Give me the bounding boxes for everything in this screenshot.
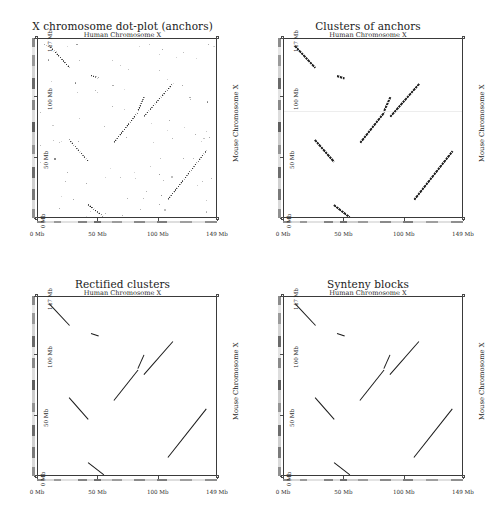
panel-clusters: Clusters of anchorsHuman Chromosome XMou… bbox=[245, 0, 491, 258]
anchor-point bbox=[65, 181, 66, 182]
anchor-point bbox=[105, 177, 106, 178]
ideogram-y-band bbox=[32, 380, 35, 390]
ideogram-y-band bbox=[278, 358, 281, 368]
y-ticklabel: 0 Mb bbox=[286, 472, 292, 487]
ideogram-x-band bbox=[333, 479, 340, 482]
plot-corner-marker bbox=[462, 217, 465, 220]
anchor-point bbox=[162, 49, 163, 50]
ideogram-y-band bbox=[32, 167, 35, 178]
anchor-point bbox=[48, 59, 49, 60]
ideogram-x-band bbox=[122, 479, 134, 482]
anchor-point bbox=[120, 65, 121, 66]
anchor-point bbox=[79, 60, 80, 61]
anchor-point bbox=[213, 46, 214, 47]
ideogram-y-band bbox=[278, 403, 281, 413]
synteny-segment bbox=[168, 409, 208, 459]
plot-corner-marker bbox=[35, 294, 38, 297]
anchor-point bbox=[51, 81, 52, 82]
anchor-point bbox=[61, 141, 62, 142]
ideogram-x-band bbox=[122, 221, 134, 224]
ideogram-x-band bbox=[44, 479, 54, 482]
ideogram-x-band bbox=[112, 479, 122, 482]
ideogram-y-band bbox=[278, 189, 281, 200]
ideogram-y-band bbox=[32, 436, 35, 447]
anchor-point bbox=[59, 142, 60, 143]
y-ticklabel: 50 Mb bbox=[43, 409, 49, 427]
ideogram-y-band bbox=[32, 189, 35, 200]
ideogram-y-band bbox=[278, 66, 281, 78]
ideogram-y-band bbox=[32, 122, 35, 132]
anchor-point bbox=[159, 204, 160, 205]
ideogram-x-band bbox=[180, 221, 192, 224]
ideogram-y-band bbox=[32, 200, 35, 210]
ideogram-y-band bbox=[32, 66, 35, 78]
ideogram-y-band bbox=[278, 336, 281, 347]
plot-corner-marker bbox=[216, 36, 219, 39]
x-ticklabel: 50 Mb bbox=[88, 231, 106, 237]
ideogram-x-band bbox=[324, 221, 332, 224]
anchor-point bbox=[167, 130, 168, 131]
anchor-point bbox=[112, 60, 113, 61]
anchor-point bbox=[59, 208, 60, 209]
ideogram-x-band bbox=[167, 221, 179, 224]
ideogram-y-band bbox=[32, 145, 35, 155]
ideogram-y-band bbox=[32, 55, 35, 66]
ideogram-y-band bbox=[32, 390, 35, 402]
y-tick bbox=[280, 415, 283, 416]
ideogram-x-band bbox=[324, 479, 332, 482]
synteny-segment bbox=[384, 97, 391, 111]
anchor-point bbox=[150, 166, 151, 167]
anchor-point bbox=[184, 127, 185, 128]
anchor-point bbox=[95, 90, 96, 91]
x-ticklabel: 50 Mb bbox=[334, 489, 352, 495]
anchor-point bbox=[140, 209, 141, 210]
ideogram-y-anchors bbox=[32, 38, 35, 218]
y-ticklabel: 100 Mb bbox=[47, 346, 53, 368]
ideogram-x-band bbox=[333, 221, 340, 224]
ideogram-x-band bbox=[368, 479, 380, 482]
ideogram-x-band bbox=[426, 479, 438, 482]
plot-area-anchors bbox=[37, 38, 217, 218]
y-ticklabel: 50 Mb bbox=[289, 409, 295, 427]
plot-area-clusters bbox=[283, 38, 463, 218]
anchor-point bbox=[135, 178, 136, 179]
figure-canvas: X chromosome dot-plot (anchors)Human Chr… bbox=[0, 0, 491, 517]
anchor-point bbox=[182, 85, 183, 86]
anchor-point bbox=[86, 216, 87, 217]
x-ticklabel: 0 Mb bbox=[276, 231, 291, 237]
ideogram-y-band bbox=[278, 100, 281, 110]
anchor-point bbox=[159, 70, 160, 71]
y-ticklabel: 0 Mb bbox=[40, 214, 46, 229]
ideogram-x-band bbox=[413, 221, 425, 224]
plot-corner-marker bbox=[35, 217, 38, 220]
anchor-point bbox=[79, 118, 80, 119]
ideogram-y-band bbox=[278, 178, 281, 189]
ideogram-x-band bbox=[368, 221, 380, 224]
synteny-segment bbox=[384, 355, 391, 369]
anchor-point bbox=[159, 174, 160, 175]
ideogram-y-band bbox=[32, 305, 35, 314]
anchor-point bbox=[40, 162, 41, 163]
anchor-point bbox=[52, 125, 53, 126]
ideogram-x-band bbox=[78, 221, 86, 224]
synteny-segment bbox=[414, 409, 454, 459]
ideogram-y-band bbox=[32, 38, 35, 47]
anchor-point bbox=[183, 52, 184, 53]
anchor-point bbox=[73, 199, 74, 200]
anchor-point bbox=[196, 58, 197, 59]
anchor-point bbox=[104, 126, 105, 127]
synteny-segment bbox=[138, 97, 145, 111]
y-ticklabel: 100 Mb bbox=[293, 346, 299, 368]
x-tick bbox=[343, 218, 344, 221]
anchor-point bbox=[90, 211, 91, 212]
synteny-segment bbox=[337, 75, 345, 79]
anchor-point bbox=[149, 44, 150, 45]
synteny-segment bbox=[390, 341, 420, 375]
ideogram-x-band bbox=[307, 221, 324, 224]
anchor-point bbox=[197, 185, 198, 186]
ideogram-y-band bbox=[32, 110, 35, 122]
anchor-point bbox=[206, 211, 207, 212]
panel-synteny: Synteny blocksHuman Chromosome XMouse Ch… bbox=[245, 258, 491, 517]
anchor-point bbox=[112, 85, 113, 86]
plot-corner-marker bbox=[281, 217, 284, 220]
